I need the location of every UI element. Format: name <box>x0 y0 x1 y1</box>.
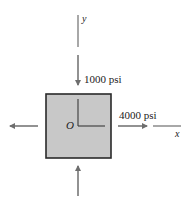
stress-element-diagram: y 1000 psi O 4000 psi x <box>0 0 192 200</box>
x-axis-label: x <box>174 128 180 139</box>
y-axis-label: y <box>81 13 87 24</box>
x-stress-label: 4000 psi <box>119 109 157 121</box>
y-stress-label: 1000 psi <box>84 73 122 85</box>
origin-label: O <box>66 119 74 131</box>
